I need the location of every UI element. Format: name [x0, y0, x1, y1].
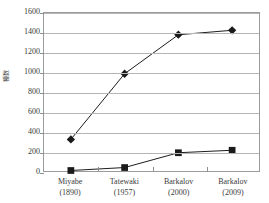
y-axis-tick-label: 1600 — [24, 8, 40, 16]
series-layer — [44, 13, 259, 171]
x-axis-tick-label: Barkalov(2000) — [164, 176, 193, 198]
gridline — [44, 73, 259, 74]
gridline — [44, 53, 259, 54]
gridline — [44, 93, 259, 94]
y-axis-tick-mark — [40, 113, 44, 114]
data-point-subset-0 — [68, 167, 75, 174]
y-axis-tick-label: 1200 — [24, 48, 40, 56]
series-line-total — [71, 30, 232, 139]
y-axis-tick-label: 400 — [28, 128, 40, 136]
y-axis-tick-label: 800 — [28, 88, 40, 96]
gridline — [44, 133, 259, 134]
x-axis-label-year: (1890) — [58, 187, 82, 198]
data-point-total-2 — [174, 31, 182, 39]
y-axis-tick-mark — [40, 133, 44, 134]
y-axis-tick-mark — [40, 153, 44, 154]
chart-container: 種数 02004006008001000120014001600 Miyabe(… — [0, 0, 269, 203]
x-axis-label-name: Tatewaki — [110, 177, 139, 186]
y-axis-tick-mark — [40, 173, 44, 174]
x-axis-tick-labels: Miyabe(1890)Tatewaki(1957)Barkalov(2000)… — [43, 176, 260, 203]
y-axis-tick-mark — [40, 93, 44, 94]
gridline — [44, 113, 259, 114]
x-axis-label-name: Barkalov — [218, 177, 247, 186]
y-axis-tick-mark — [40, 13, 44, 14]
x-axis-tick-label: Miyabe(1890) — [58, 176, 82, 198]
y-axis-tick-label: 1400 — [24, 28, 40, 36]
x-axis-label-year: (2000) — [164, 187, 193, 198]
x-axis-label-name: Miyabe — [58, 177, 82, 186]
y-axis-tick-label: 1000 — [24, 68, 40, 76]
y-axis-tick-label: 600 — [28, 108, 40, 116]
x-axis-tick-label: Tatewaki(1957) — [110, 176, 139, 198]
x-axis-tick-mark — [207, 167, 208, 171]
y-axis-tick-mark — [40, 53, 44, 54]
x-axis-tick-mark — [98, 167, 99, 171]
x-axis-label-year: (1957) — [110, 187, 139, 198]
gridline — [44, 13, 259, 14]
x-axis-tick-label: Barkalov(2009) — [218, 176, 247, 198]
x-axis-label-name: Barkalov — [164, 177, 193, 186]
data-point-subset-1 — [121, 164, 128, 171]
gridline — [44, 153, 259, 154]
y-axis-tick-label: 200 — [28, 148, 40, 156]
y-axis-tick-mark — [40, 73, 44, 74]
gridline — [44, 33, 259, 34]
y-axis-tick-mark — [40, 33, 44, 34]
y-axis-tick-labels: 02004006008001000120014001600 — [8, 12, 40, 172]
x-axis-tick-mark — [153, 167, 154, 171]
plot-area — [43, 12, 260, 172]
y-axis-tick-label: 0 — [36, 168, 40, 176]
x-axis-label-year: (2009) — [218, 187, 247, 198]
